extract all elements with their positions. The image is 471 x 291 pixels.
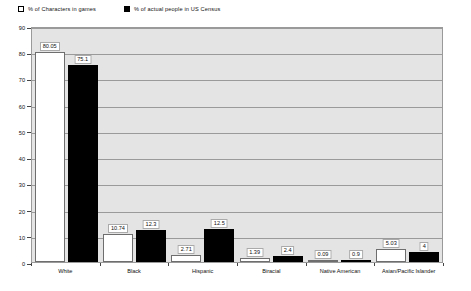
bar-chart: % of Characters in games % of actual peo… [0, 0, 471, 291]
bar-value-label: 0.09 [315, 250, 332, 259]
legend-label-census: % of actual people in US Census [134, 6, 220, 12]
x-axis-tick-mark [306, 263, 307, 266]
bar-group: 2.7112.5 [169, 28, 237, 262]
chart-legend: % of Characters in games % of actual peo… [18, 6, 220, 12]
bar-item[interactable]: 12.3 [136, 230, 166, 262]
y-axis-tick: 60 [19, 104, 31, 110]
open-square-icon [18, 6, 24, 12]
bar-item[interactable]: 12.5 [204, 229, 234, 262]
y-axis-tick-label: 50 [19, 130, 25, 136]
bar-census[interactable]: 75.1 [68, 65, 98, 262]
legend-label-characters: % of Characters in games [28, 6, 96, 12]
bar-characters[interactable]: 1.39 [240, 258, 270, 262]
plot-area: 80.0575.110.7412.32.7112.51.392.40.090.9… [31, 27, 443, 263]
x-axis-tick-mark [443, 263, 444, 266]
x-axis-label: Native American [306, 268, 375, 274]
bar-value-label: 2.71 [178, 245, 195, 254]
bar-value-label: 12.3 [143, 220, 160, 229]
bar-census[interactable]: 2.4 [273, 256, 303, 262]
bar-value-label: 10.74 [108, 224, 128, 233]
y-axis-tick-label: 0 [22, 261, 25, 267]
bar-characters[interactable]: 5.03 [376, 249, 406, 262]
y-axis: 0102030405060708090 [0, 27, 31, 264]
x-axis-label: Biracial [237, 268, 306, 274]
bar-group: 5.034 [374, 28, 442, 262]
y-axis-tick-label: 70 [19, 77, 25, 83]
bar-value-label: 5.03 [383, 239, 400, 248]
y-axis-tick-label: 30 [19, 182, 25, 188]
y-axis-tick-label: 20 [19, 209, 25, 215]
y-axis-tick: 30 [19, 182, 31, 188]
y-axis-tick: 0 [22, 261, 31, 267]
y-axis-tick: 10 [19, 235, 31, 241]
y-axis-tick: 40 [19, 156, 31, 162]
bar-item[interactable]: 80.05 [35, 52, 65, 262]
legend-item-census: % of actual people in US Census [124, 6, 220, 12]
bar-value-label: 0.9 [349, 250, 363, 259]
x-axis: WhiteBlackHispanicBiracialNative America… [31, 263, 443, 285]
bar-characters[interactable]: 10.74 [103, 234, 133, 262]
bar-item[interactable]: 2.71 [171, 255, 201, 262]
bar-item[interactable]: 1.39 [240, 258, 270, 262]
x-axis-label: White [31, 268, 100, 274]
bar-value-label: 12.5 [211, 219, 228, 228]
bar-item[interactable]: 75.1 [68, 65, 98, 262]
y-axis-tick-label: 80 [19, 51, 25, 57]
x-axis-tick-mark [374, 263, 375, 266]
x-axis-label: Black [100, 268, 169, 274]
bar-census[interactable]: 12.5 [204, 229, 234, 262]
bar-characters[interactable]: 2.71 [171, 255, 201, 262]
y-axis-tick: 70 [19, 77, 31, 83]
x-axis-label: Hispanic [168, 268, 237, 274]
bar-value-label: 1.39 [246, 248, 263, 257]
y-axis-tick-label: 40 [19, 156, 25, 162]
bar-item[interactable]: 4 [409, 252, 439, 262]
bar-characters[interactable]: 0.09 [308, 260, 338, 262]
bar-value-label: 75.1 [74, 55, 91, 64]
x-axis-tick-mark [31, 263, 32, 266]
x-axis-labels: WhiteBlackHispanicBiracialNative America… [31, 268, 443, 274]
y-axis-tick: 20 [19, 209, 31, 215]
bar-census[interactable]: 0.9 [341, 260, 371, 262]
y-axis-tick-label: 90 [19, 25, 25, 31]
bar-group: 80.0575.1 [32, 28, 100, 262]
bar-value-label: 80.05 [40, 42, 60, 51]
y-axis-tick-label: 10 [19, 235, 25, 241]
legend-item-characters: % of Characters in games [18, 6, 96, 12]
bar-item[interactable]: 0.9 [341, 260, 371, 262]
y-axis-tick: 50 [19, 130, 31, 136]
y-axis-tick: 80 [19, 51, 31, 57]
bar-census[interactable]: 4 [409, 252, 439, 262]
bar-item[interactable]: 10.74 [103, 234, 133, 262]
x-axis-tick-mark [168, 263, 169, 266]
filled-square-icon [124, 6, 130, 12]
bar-group: 10.7412.3 [100, 28, 168, 262]
x-axis-tick-mark [237, 263, 238, 266]
bar-census[interactable]: 12.3 [136, 230, 166, 262]
bar-group: 0.090.9 [305, 28, 373, 262]
x-axis-label: Asian/Pacific Islander [374, 268, 443, 274]
bar-item[interactable]: 0.09 [308, 260, 338, 262]
bar-value-label: 4 [420, 242, 429, 251]
y-axis-tick-label: 60 [19, 104, 25, 110]
bar-item[interactable]: 2.4 [273, 256, 303, 262]
x-axis-tick-mark [100, 263, 101, 266]
bar-group: 1.392.4 [237, 28, 305, 262]
bar-item[interactable]: 5.03 [376, 249, 406, 262]
bar-characters[interactable]: 80.05 [35, 52, 65, 262]
bar-groups: 80.0575.110.7412.32.7112.51.392.40.090.9… [32, 28, 442, 262]
y-axis-tick: 90 [19, 25, 31, 31]
bar-value-label: 2.4 [281, 246, 295, 255]
